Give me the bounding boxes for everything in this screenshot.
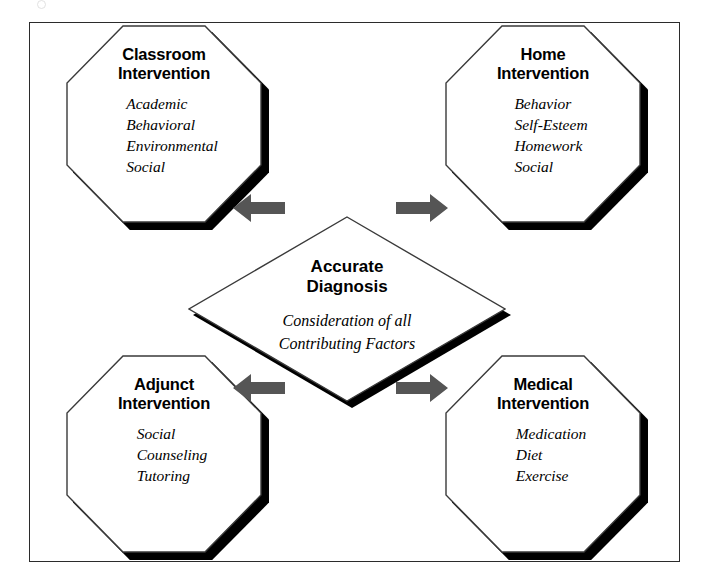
node-item-list: Behavior Self-Esteem Homework Social	[498, 93, 587, 177]
node-item: Exercise	[516, 465, 569, 486]
arrow-right-icon-to-medical	[396, 372, 448, 404]
node-item-list: Medication Diet Exercise	[500, 423, 587, 486]
node-item: Social	[514, 156, 553, 177]
node-content: Home Intervention Behavior Self-Esteem H…	[445, 25, 641, 223]
node-item-list: Academic Behavioral Environmental Social	[110, 93, 218, 177]
node-item-list: Social Counseling Tutoring	[121, 423, 208, 486]
arrow-left-icon-to-adjunct	[233, 372, 285, 404]
node-item: Tutoring	[137, 465, 190, 486]
arrow-left-icon-to-classroom	[233, 192, 285, 224]
node-item: Homework	[514, 135, 582, 156]
diamond-subtitle: Consideration of all Contributing Factor…	[279, 309, 415, 355]
node-title: Home Intervention	[497, 45, 589, 83]
node-title: Medical Intervention	[497, 375, 589, 413]
node-item: Counseling	[137, 444, 208, 465]
diamond-title: Accurate Diagnosis	[306, 257, 387, 297]
node-item: Environmental	[126, 135, 218, 156]
node-item: Academic	[126, 93, 187, 114]
diagram-canvas: Classroom Intervention Academic Behavior…	[0, 0, 703, 580]
arrow-right-icon-to-home	[396, 192, 448, 224]
node-item: Social	[137, 423, 176, 444]
node-item: Medication	[516, 423, 587, 444]
node-item: Self-Esteem	[514, 114, 587, 135]
node-home-intervention[interactable]: Home Intervention Behavior Self-Esteem H…	[445, 25, 641, 223]
node-item: Behavioral	[126, 114, 195, 135]
node-item: Behavior	[514, 93, 571, 114]
node-item: Social	[126, 156, 165, 177]
scan-artifact-mark	[37, 0, 46, 9]
node-item: Diet	[516, 444, 543, 465]
node-title: Classroom Intervention	[118, 45, 210, 83]
